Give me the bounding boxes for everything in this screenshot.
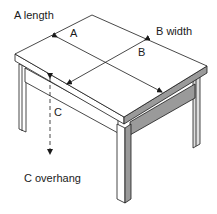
label-b-width: B width xyxy=(156,26,192,37)
label-a-length: A length xyxy=(14,10,54,21)
label-c-overhang: C overhang xyxy=(24,173,81,184)
label-c: C xyxy=(54,107,62,118)
label-a: A xyxy=(70,28,77,39)
label-b: B xyxy=(138,47,145,58)
front-leg xyxy=(117,124,131,203)
